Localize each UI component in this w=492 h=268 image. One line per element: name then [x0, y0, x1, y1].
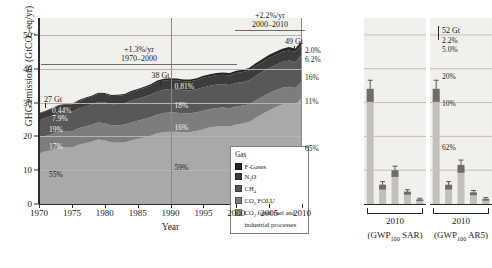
y-axis-title-pre: GHG emissions (GtCO: [24, 36, 34, 127]
panel-ar5-svg: [430, 18, 492, 204]
share-1990-ch4: 18%: [175, 101, 189, 110]
rate-annotation-1970-2000: +1.3%/yr1970–2000: [41, 45, 237, 63]
rate-annotation-2000-2010-period: 2000–2010: [235, 20, 305, 29]
y-tickmark-50: [34, 34, 39, 35]
rate-annotation-2000-2010: +2.2%/yr2000–2010: [235, 11, 305, 29]
y-tickmark-10: [34, 170, 39, 171]
bar-core-1: [445, 185, 452, 190]
total-tick-1990: [160, 80, 161, 85]
callout-line-1970: [39, 18, 40, 204]
bar-core-0: [433, 89, 440, 102]
share-1990-folu: 16%: [175, 123, 189, 132]
bar-core-2: [458, 165, 465, 173]
legend: Gas F-Gases N2O CH4 CO2 FOLU CO2 fossil …: [230, 146, 309, 234]
total-tick-1970: [45, 103, 46, 108]
x-tickmark-1995: [203, 204, 204, 208]
panel-share-fgases: 2.2%: [442, 36, 458, 45]
x-tickmark-2005: [269, 204, 270, 208]
panel-brace-sar: [367, 208, 423, 214]
total-tick-2010: [294, 46, 295, 51]
legend-label-ch4: CH4: [245, 184, 256, 196]
legend-swatch-fgases: [235, 163, 242, 170]
bar-stem-2: [392, 174, 399, 204]
share-2010-ch4: 16%: [305, 73, 319, 82]
panel-gwp100-ar5: [430, 18, 492, 204]
bar-stem-3: [404, 193, 411, 204]
x-tickmark-2010: [302, 204, 303, 208]
share-2010-co2-ffi: 65%: [305, 144, 319, 153]
y-tick-40: 40: [10, 64, 32, 74]
share-1970-ch4: 19%: [49, 125, 63, 134]
x-tickmark-1975: [72, 204, 73, 208]
bar-core-3: [470, 192, 477, 195]
share-1990-fgases: 0.81%: [175, 82, 194, 91]
legend-label-n2o: N2O: [245, 172, 257, 184]
total-label-1990: 38 Gt: [152, 71, 170, 80]
y-tickmark-30: [34, 102, 39, 103]
x-tickmark-1980: [105, 204, 106, 208]
bar-stem-0: [433, 96, 440, 204]
legend-label-fgases: F-Gases: [245, 162, 267, 172]
figure-root: GHG emissions (GtCO2-eq/yr) Year Gas F-G…: [0, 0, 492, 268]
panel-ar5-year: 2010: [401, 216, 492, 226]
y-axis-title-post: -eq/yr): [24, 6, 34, 33]
rate-annotation-2000-2010-value: +2.2%/yr: [235, 11, 305, 20]
y-tick-50: 50: [10, 30, 32, 40]
legend-swatch-ch4: [235, 185, 242, 192]
panel-brace-ar5: [433, 208, 489, 214]
share-2010-co2-folu: 11%: [305, 97, 318, 106]
rate-annotation-1970-2000-bar: [41, 64, 237, 65]
panel-gwp100-sar: [364, 18, 426, 204]
bar-core-3: [404, 192, 411, 195]
legend-item-n2o[interactable]: N2O: [235, 172, 305, 184]
bar-stem-2: [458, 169, 465, 204]
legend-swatch-co2-folu: [235, 197, 242, 204]
bar-stem-1: [379, 187, 386, 204]
y-tick-30: 30: [10, 98, 32, 108]
panel-baseline-sar: [364, 204, 426, 205]
legend-item-ch4[interactable]: CH4: [235, 184, 305, 196]
panel-share-co2-ffi: 62%: [442, 143, 456, 152]
bar-stem-0: [367, 96, 374, 204]
legend-swatch-n2o: [235, 173, 242, 180]
bar-core-2: [392, 170, 399, 177]
rate-annotation-1970-2000-value: +1.3%/yr: [41, 45, 237, 54]
panel-sar-svg: [364, 18, 426, 204]
share-1970-co2-ffi: 55%: [49, 170, 63, 179]
panel-total-tick: [438, 26, 439, 40]
panel-share-co2-folu: 10%: [442, 99, 456, 108]
rate-annotation-2000-2010-bar: [235, 30, 305, 31]
x-tickmark-1985: [138, 204, 139, 208]
rate-annotation-1970-2000-period: 1970–2000: [41, 54, 237, 63]
legend-item-fgases[interactable]: F-Gases: [235, 162, 305, 172]
share-1970-n2o: 7.9%: [52, 114, 68, 123]
x-tick-2010: 2010: [282, 208, 322, 218]
x-tickmark-2000: [236, 204, 237, 208]
total-label-2010: 49 Gt: [285, 37, 303, 46]
panel-share-ch4: 20%: [442, 72, 456, 81]
bar-core-0: [367, 89, 374, 102]
share-2010-n2o: 6.2%: [305, 55, 321, 64]
legend-title: Gas: [235, 150, 305, 161]
share-1990-co2-ffi: 59%: [175, 163, 189, 172]
panel-share-n2o: 5.0%: [442, 45, 458, 54]
total-label-1970: 27 Gt: [44, 95, 62, 104]
x-tickmark-1970: [39, 204, 40, 208]
y-tick-20: 20: [10, 131, 32, 141]
share-1970-folu: 17%: [49, 142, 63, 151]
share-2010-fgases: 2.0%: [305, 46, 321, 55]
panel-ar5-metric: (GWP100 AR5): [401, 230, 492, 242]
bar-stem-3: [470, 194, 477, 204]
legend-label-co2-folu: CO2 FOLU: [245, 196, 275, 208]
panel-total-label: 52 Gt: [442, 26, 460, 35]
bar-core-4: [482, 199, 489, 201]
panel-baseline-ar5: [430, 204, 492, 205]
y-tickmark-20: [34, 136, 39, 137]
x-tickmark-1990: [171, 204, 172, 208]
bar-core-4: [416, 199, 423, 201]
bar-stem-1: [445, 187, 452, 204]
y-tickmark-40: [34, 68, 39, 69]
y-tick-10: 10: [10, 165, 32, 175]
bar-core-1: [379, 185, 386, 190]
